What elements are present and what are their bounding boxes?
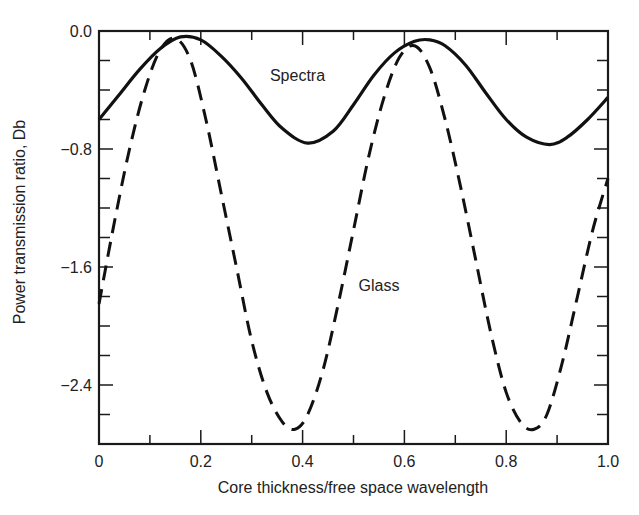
y-tick-label: 0.0 (70, 23, 92, 40)
series-spectra (99, 36, 608, 144)
x-tick-label: 0.2 (190, 453, 212, 470)
annotations: SpectraGlass (270, 67, 399, 293)
x-tick-label: 0.8 (495, 453, 517, 470)
y-tick-labels: 0.0−0.8−1.6−2.4 (60, 23, 92, 394)
series-lines (99, 36, 608, 430)
series-glass (99, 38, 608, 430)
y-tick-label: −2.4 (60, 377, 92, 394)
annotation-spectra: Spectra (270, 67, 325, 84)
x-axis-label: Core thickness/free space wavelength (218, 479, 488, 496)
x-tick-label: 0 (95, 453, 104, 470)
y-tick-label: −1.6 (60, 259, 92, 276)
y-tick-label: −0.8 (60, 141, 92, 158)
x-tick-labels: 00.20.40.60.81.0 (95, 453, 620, 470)
y-axis-label: Power transmission ratio, Db (11, 120, 28, 325)
x-tick-label: 1.0 (597, 453, 619, 470)
annotation-glass: Glass (358, 277, 399, 294)
x-tick-label: 0.4 (291, 453, 313, 470)
x-tick-label: 0.6 (393, 453, 415, 470)
chart: 00.20.40.60.81.0 0.0−0.8−1.6−2.4 Spectra… (0, 0, 639, 515)
